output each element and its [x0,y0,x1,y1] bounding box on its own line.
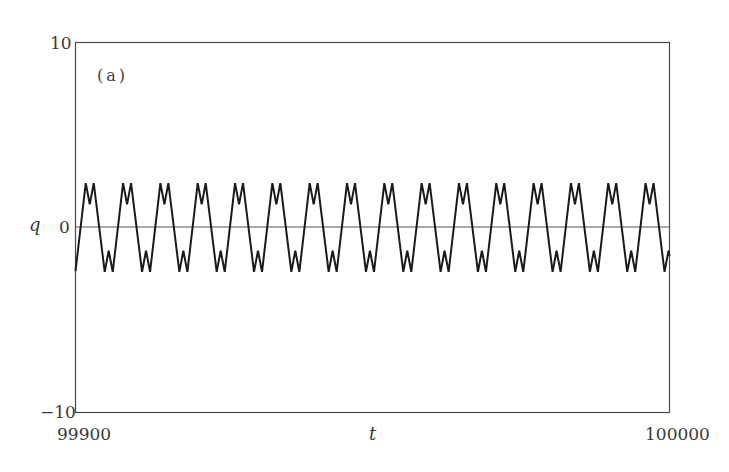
y-tick-min: −10 [40,404,76,421]
y-axis-label: q [29,216,41,234]
x-axis-label: t [369,425,376,443]
x-tick-end: 100000 [645,426,710,443]
y-tick-max: 10 [50,35,72,52]
panel-label: (a) [97,68,128,84]
y-tick-zero: 0 [59,219,70,236]
x-tick-start: 99900 [57,426,111,443]
